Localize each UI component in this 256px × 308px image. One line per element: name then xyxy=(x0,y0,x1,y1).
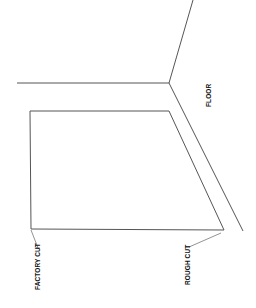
diagram-canvas: FLOOR FACTORY CUT ROUGH CUT xyxy=(0,0,256,308)
factory-cut-label: FACTORY CUT xyxy=(34,243,41,290)
wall-edge-line xyxy=(169,0,193,83)
rough-cut-label: ROUGH CUT xyxy=(184,245,191,285)
rough-cut-leader xyxy=(189,233,221,247)
panel-outline xyxy=(30,111,224,230)
floor-label: FLOOR xyxy=(205,84,212,107)
